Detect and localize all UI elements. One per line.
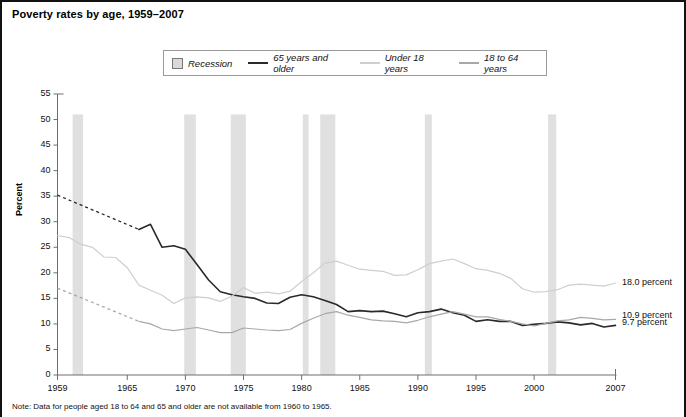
chart-plot-area: 0510152025303540455055 19591965197019751… xyxy=(0,0,686,417)
series-line xyxy=(139,224,616,327)
x-tick-label: 1980 xyxy=(282,383,322,393)
y-tick-label: 25 xyxy=(25,241,51,251)
recession-band xyxy=(303,114,309,375)
series-dashed-segment xyxy=(58,195,139,229)
y-tick-label: 50 xyxy=(25,114,51,124)
x-tick-label: 1975 xyxy=(224,383,264,393)
y-tick-label: 45 xyxy=(25,139,51,149)
x-tick-label: 1965 xyxy=(107,383,147,393)
series-line xyxy=(139,312,616,333)
x-tick-label: 1970 xyxy=(165,383,205,393)
recession-band xyxy=(320,114,335,375)
y-tick-label: 35 xyxy=(25,190,51,200)
chart-svg xyxy=(0,0,686,417)
x-tick-label: 2007 xyxy=(596,383,636,393)
series-line xyxy=(58,236,616,304)
series-end-label: 9.7 percent xyxy=(622,317,667,327)
x-tick-label: 1990 xyxy=(398,383,438,393)
series-end-label: 18.0 percent xyxy=(622,277,672,287)
x-tick-label: 1959 xyxy=(38,383,78,393)
recession-band xyxy=(548,114,556,375)
y-tick-label: 20 xyxy=(25,267,51,277)
y-tick-label: 10 xyxy=(25,318,51,328)
y-tick-label: 15 xyxy=(25,292,51,302)
y-tick-label: 55 xyxy=(25,88,51,98)
series-dashed-segment xyxy=(58,288,139,321)
chart-note: Note: Data for people aged 18 to 64 and … xyxy=(12,402,332,411)
recession-band xyxy=(184,114,196,375)
y-tick-label: 40 xyxy=(25,165,51,175)
x-tick-label: 1985 xyxy=(340,383,380,393)
y-tick-label: 5 xyxy=(25,343,51,353)
recession-band xyxy=(231,114,246,375)
x-tick-label: 1995 xyxy=(456,383,496,393)
y-tick-label: 0 xyxy=(25,369,51,379)
x-tick-label: 2000 xyxy=(514,383,554,393)
recession-band xyxy=(425,114,432,375)
y-tick-label: 30 xyxy=(25,216,51,226)
